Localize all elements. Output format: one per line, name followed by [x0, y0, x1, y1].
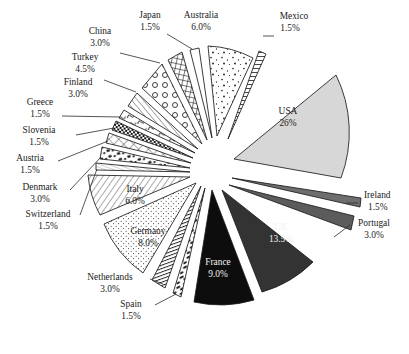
label-portugal-name: Portugal — [358, 218, 390, 228]
label-ireland-pct: 1.5% — [368, 202, 388, 212]
label-germany-pct: 8.0% — [138, 238, 158, 248]
label-slovenia-pct: 1.5% — [29, 137, 49, 147]
label-japan-name: Japan — [139, 10, 161, 20]
label-china-pct: 3.0% — [90, 38, 110, 48]
leader-line-greece — [62, 116, 120, 117]
label-denmark-name: Denmark — [23, 182, 58, 192]
label-germany-name: Germany — [131, 226, 166, 236]
pie-chart-figure: Japan 1.5% Australia 6.0% Mexico 1.5% Ch… — [0, 0, 409, 354]
label-usa-name: USA — [279, 106, 298, 116]
leader-line-turkey — [104, 80, 136, 92]
leader-line-japan — [167, 34, 192, 49]
label-mexico-pct: 1.5% — [280, 23, 300, 33]
label-usa-pct: 26% — [279, 118, 296, 128]
label-turkey-pct: 4.5% — [75, 64, 95, 74]
label-finland-name: Finland — [64, 77, 93, 87]
label-portugal-pct: 3.0% — [364, 230, 384, 240]
label-finland-pct: 3.0% — [68, 89, 88, 99]
label-australia-name: Australia — [184, 10, 219, 20]
pie-chart-svg: Japan 1.5% Australia 6.0% Mexico 1.5% Ch… — [0, 0, 409, 354]
label-china-name: China — [89, 26, 112, 36]
label-mexico-name: Mexico — [280, 11, 309, 21]
label-austria-name: Austria — [16, 153, 44, 163]
label-austria-pct: 1.5% — [20, 165, 40, 175]
label-denmark-pct: 3.0% — [30, 194, 50, 204]
label-ireland-name: Ireland — [364, 190, 391, 200]
label-australia-pct: 6.0% — [191, 22, 211, 32]
label-france-name: France — [205, 257, 231, 267]
label-italy-name: Italy — [126, 184, 143, 194]
label-netherlands-name: Netherlands — [87, 272, 133, 282]
label-slovenia-name: Slovenia — [23, 125, 57, 135]
label-france-pct: 9.0% — [208, 269, 228, 279]
label-switzerland-name: Switzerland — [26, 209, 71, 219]
leader-line-spain — [155, 294, 176, 305]
label-netherlands-pct: 3.0% — [100, 284, 120, 294]
label-spain-pct: 1.5% — [121, 311, 141, 321]
label-greece-pct: 1.5% — [30, 109, 50, 119]
label-switzerland-pct: 1.5% — [38, 221, 58, 231]
label-uk-pct: 13.5% — [269, 234, 293, 244]
label-uk-name: UK — [274, 222, 288, 232]
label-italy-pct: 6.0% — [125, 196, 145, 206]
label-turkey-name: Turkey — [72, 52, 99, 62]
label-greece-name: Greece — [27, 97, 54, 107]
label-spain-name: Spain — [120, 299, 142, 309]
label-japan-pct: 1.5% — [140, 22, 160, 32]
leader-line-china — [120, 53, 160, 63]
